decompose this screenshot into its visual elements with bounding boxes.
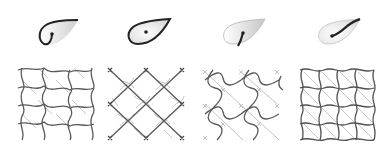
wavy-pinwheel-tile [8,66,104,142]
teardrop-dot-icon [98,4,194,48]
panel-c [193,0,289,150]
teardrop-short-stroke-icon [193,4,289,48]
wavy-square-grid-tile [288,66,384,142]
panel-a [8,0,104,150]
panel-b [98,0,194,150]
wavy-s-lattice-tile [193,66,289,142]
teardrop-long-stroke-icon [288,4,384,48]
panel-d [288,0,384,150]
diagonal-lattice-tile [98,66,194,142]
teardrop-hook-icon [8,4,104,48]
